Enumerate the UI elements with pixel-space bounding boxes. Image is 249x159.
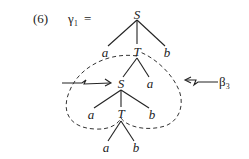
node-mid-a: a: [147, 77, 154, 90]
node-root-S: S: [134, 8, 141, 21]
node-root-a: a: [102, 46, 109, 59]
node-low-T: T: [117, 107, 124, 120]
node-mid-S: S: [118, 77, 125, 90]
node-low-b: b: [149, 108, 156, 121]
node-leaf-a: a: [103, 141, 110, 154]
node-root-b: b: [164, 46, 171, 59]
node-low-a: a: [88, 108, 95, 121]
equals-sign: =: [84, 12, 91, 25]
node-root-T: T: [133, 45, 140, 58]
node-leaf-b: b: [133, 141, 140, 154]
tree-name: γ₁: [68, 12, 78, 25]
example-number: (6): [33, 12, 48, 25]
beta-label: β₃: [219, 75, 230, 88]
